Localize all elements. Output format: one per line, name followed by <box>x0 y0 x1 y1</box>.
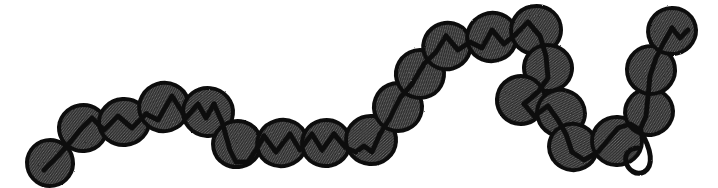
bead-chain-illustration <box>0 0 718 188</box>
figure-root <box>0 0 718 188</box>
